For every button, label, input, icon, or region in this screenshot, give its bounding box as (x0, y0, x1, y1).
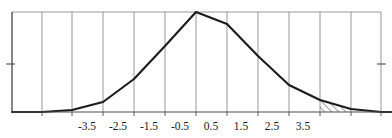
x-tick-label: 2.5 (265, 120, 280, 132)
x-tick-label: -3.5 (78, 120, 96, 132)
x-tick-label: 3.5 (296, 120, 311, 132)
x-tick-label: -1.5 (140, 120, 158, 132)
normal-distribution-chart: -3.5 -2.5 -1.5 -0.5 0.5 1.5 2.5 3.5 (0, 0, 392, 138)
x-tick-label: 0.5 (204, 120, 219, 132)
chart-canvas: -3.5 -2.5 -1.5 -0.5 0.5 1.5 2.5 3.5 (0, 0, 392, 138)
x-tick-label: 1.5 (234, 120, 249, 132)
x-tick-label: -2.5 (109, 120, 127, 132)
x-tick-label: -0.5 (171, 120, 189, 132)
